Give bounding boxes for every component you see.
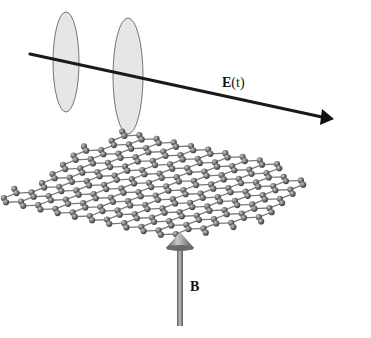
carbon-atom [86,182,92,188]
carbon-atom [300,182,306,188]
carbon-atom [248,171,254,177]
carbon-atom [276,165,282,171]
carbon-atom [103,186,109,192]
carbon-atom [227,189,233,195]
carbon-atom [193,182,199,188]
carbon-atom [190,147,196,153]
carbon-atom [141,228,147,234]
carbon-atom [111,142,117,148]
carbon-atom [52,175,58,181]
carbon-atom [269,209,275,215]
carbon-atom [197,160,203,166]
carbon-atom [245,193,251,199]
carbon-atom [20,203,26,209]
carbon-atom [231,167,237,173]
e-symbol: E [222,75,231,90]
carbon-atom [196,217,202,223]
carbon-atom [37,206,43,212]
carbon-atom [114,177,120,183]
carbon-atom [90,160,96,166]
b-field-label: B [190,279,199,294]
carbon-atom [135,158,141,164]
carbon-atom [62,166,68,172]
carbon-atom [83,148,89,154]
carbon-atom [183,191,189,197]
carbon-atom [3,199,9,205]
carbon-atom [159,175,165,181]
carbon-atom [106,221,112,227]
carbon-atom [262,196,268,202]
carbon-atom [207,151,213,157]
carbon-atom [128,146,134,152]
carbon-atom [230,224,236,230]
carbon-atom [203,230,209,236]
carbon-atom [118,155,124,161]
carbon-atom [107,164,113,170]
carbon-atom [266,174,272,180]
carbon-atom [31,194,37,200]
carbon-atom [93,195,99,201]
carbon-atom [13,190,19,196]
carbon-atom [117,212,123,218]
carbon-atom [99,208,105,214]
carbon-atom [168,222,174,228]
arrowhead-icon [320,109,334,125]
carbon-atom [258,218,264,224]
carbon-atom [127,202,133,208]
carbon-atom [76,192,82,198]
carbon-atom [200,195,206,201]
carbon-atom [151,219,157,225]
carbon-atom [185,226,191,232]
e-argument: (t) [231,75,245,91]
carbon-atom [221,176,227,182]
carbon-atom [176,178,182,184]
carbon-atom [155,197,161,203]
carbon-atom [214,164,220,170]
carbon-atom [148,184,154,190]
carbon-atom [144,206,150,212]
carbon-atom [79,170,85,176]
carbon-atom [172,200,178,206]
carbon-atom [279,200,285,206]
carbon-atom [89,217,95,223]
carbon-atom [251,206,257,212]
carbon-atom [82,204,88,210]
carbon-atom [217,198,223,204]
carbon-atom [225,154,231,160]
carbon-atom [123,224,129,230]
carbon-atom [97,173,103,179]
carbon-atom [152,162,158,168]
carbon-atom [180,156,186,162]
carbon-atom [131,180,137,186]
carbon-atom [72,214,78,220]
carbon-atom [55,210,61,216]
carbon-atom [169,166,175,172]
carbon-atom [156,140,162,146]
carbon-atom [210,186,216,192]
carbon-atom [73,157,79,163]
carbon-atom [69,179,75,185]
carbon-atom [141,171,147,177]
carbon-atom [206,208,212,214]
carbon-atom [121,133,127,139]
carbon-atom [204,173,210,179]
carbon-atom [272,187,278,193]
carbon-atom [165,188,171,194]
carbon-atom [255,184,261,190]
carbon-atom [162,210,168,216]
carbon-atom [145,149,151,155]
carbon-atom [158,232,164,238]
carbon-atom [65,201,71,207]
carbon-atom [134,215,140,221]
carbon-atom [162,153,168,159]
e-field-label: E(t) [222,75,245,91]
carbon-atom [186,169,192,175]
carbon-atom [283,178,289,184]
carbon-atom [100,151,106,157]
carbon-atom [120,190,126,196]
carbon-atom [259,162,265,168]
polarization-ellipses [53,12,143,134]
carbon-atom [138,193,144,199]
carbon-atom [290,191,296,197]
carbon-atom [58,188,64,194]
